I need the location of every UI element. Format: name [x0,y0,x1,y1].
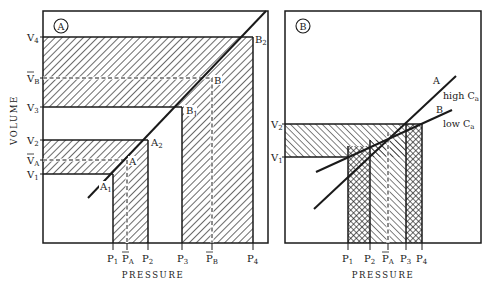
panel-a: A V4 VB V3 V2 VA V1 VOLUME [9,11,268,280]
panel-b: A high Ca B low Ca B V2 V1 P1 P2 PA P3 P… [270,11,481,280]
tick-b-p2: P2 [364,253,375,266]
line-a-label: A [432,75,440,86]
tick-vbar-a: VA [26,155,40,168]
tick-v3: V3 [26,102,39,115]
panel-a-y-axis-title: VOLUME [9,95,19,146]
tick-pbar-b: PB [206,253,218,266]
tick-p3: P3 [177,253,188,266]
panel-b-x-ticks [348,243,422,250]
panel-a-x-axis-title: PRESSURE [122,270,184,280]
point-a2: A2 [150,137,163,150]
tick-b-pbar-a: PA [382,253,395,266]
panel-a-x-ticks [113,243,253,250]
line-b-annotation: low Ca [443,118,474,131]
panel-a-x-labels: P1 PA P2 P3 PB P4 [107,252,259,266]
tick-vbar-b: VB [26,73,39,86]
tick-v1: V1 [26,169,39,182]
pressure-volume-figure: A V4 VB V3 V2 VA V1 VOLUME [0,0,491,288]
panel-a-badge: A [54,19,68,33]
svg-text:A: A [57,21,65,32]
tick-v2: V2 [26,135,39,148]
tick-p1: P1 [107,253,118,266]
tick-pbar-a: PA [122,253,135,266]
tick-v4: V4 [26,32,39,45]
tick-p2: P2 [142,253,153,266]
panel-b-x-axis-title: PRESSURE [352,270,414,280]
panel-b-badge: B [296,19,310,33]
panel-a-y-labels: V4 VB V3 V2 VA V1 [26,32,40,182]
line-b-label: B [436,104,443,115]
tick-b-p1: P1 [342,253,353,266]
svg-text:B: B [300,21,307,32]
line-a-annotation: high Ca [443,90,479,103]
panel-b-hatched-regions [285,124,422,243]
tick-b-p4: P4 [416,253,428,266]
point-a: A [128,156,137,167]
point-b: B [214,75,221,86]
tick-b-v1: V1 [270,152,283,165]
tick-b-p3: P3 [400,253,411,266]
tick-b-v2: V2 [270,119,283,132]
tick-p4: P4 [247,253,259,266]
